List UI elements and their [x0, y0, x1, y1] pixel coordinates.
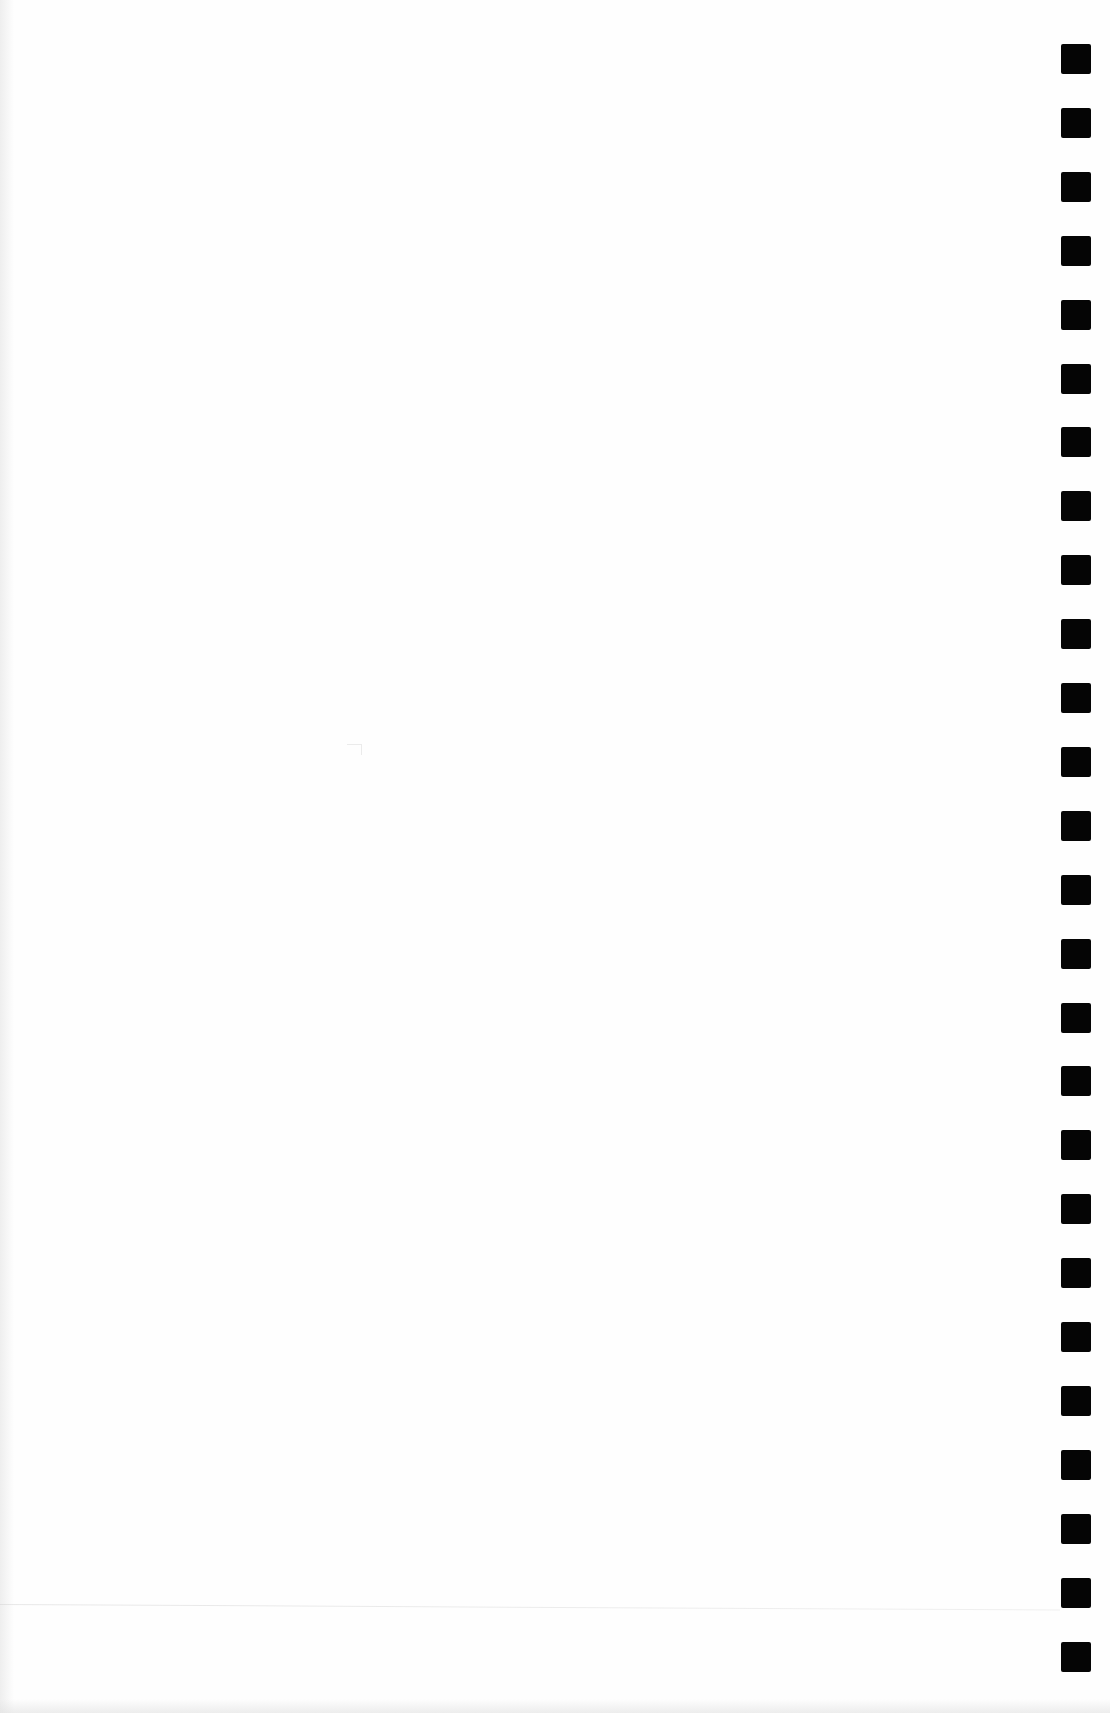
scan-edge-shadow-left — [0, 0, 14, 1713]
registration-mark — [1061, 1194, 1091, 1224]
registration-mark — [1061, 364, 1091, 394]
registration-mark — [1061, 1258, 1091, 1288]
faint-fold-line — [0, 1604, 1060, 1611]
registration-mark — [1061, 172, 1091, 202]
registration-mark — [1061, 236, 1091, 266]
registration-mark — [1061, 1450, 1091, 1480]
registration-mark — [1061, 1322, 1091, 1352]
registration-mark — [1061, 619, 1091, 649]
registration-mark — [1061, 683, 1091, 713]
scan-speck — [347, 744, 362, 755]
registration-mark — [1061, 491, 1091, 521]
registration-mark — [1061, 875, 1091, 905]
registration-mark — [1061, 427, 1091, 457]
scan-edge-shadow-bottom — [0, 1699, 1110, 1713]
registration-mark — [1061, 1386, 1091, 1416]
registration-mark — [1061, 811, 1091, 841]
registration-mark — [1061, 555, 1091, 585]
blank-document-page — [0, 0, 1110, 1713]
registration-mark — [1061, 939, 1091, 969]
registration-mark — [1061, 108, 1091, 138]
registration-mark — [1061, 44, 1091, 74]
registration-mark — [1061, 300, 1091, 330]
registration-mark — [1061, 1642, 1091, 1672]
registration-mark — [1061, 1130, 1091, 1160]
registration-mark — [1061, 747, 1091, 777]
registration-mark — [1061, 1578, 1091, 1608]
registration-mark — [1061, 1514, 1091, 1544]
registration-marks-column — [1061, 0, 1092, 1713]
registration-mark — [1061, 1003, 1091, 1033]
registration-mark — [1061, 1066, 1091, 1096]
